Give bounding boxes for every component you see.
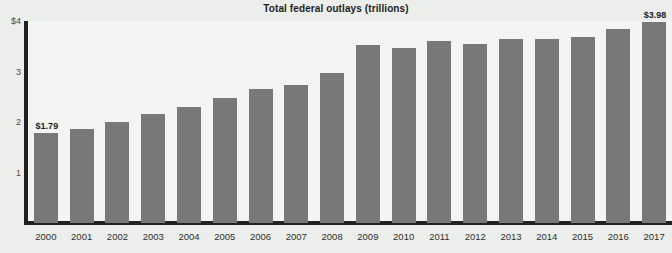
bar-rect-2003[interactable]: [141, 114, 165, 223]
bar-rect-2004[interactable]: [177, 107, 201, 223]
x-axis-tick-2006: 2006: [243, 231, 279, 243]
bar-2013[interactable]: [499, 21, 523, 223]
bar-value-label-2000: $1.79: [28, 121, 66, 131]
bar-2003[interactable]: [141, 21, 165, 223]
bar-rect-2010[interactable]: [392, 48, 416, 223]
bar-rect-2015[interactable]: [571, 37, 595, 223]
bar-2008[interactable]: [320, 21, 344, 223]
bar-2005[interactable]: [213, 21, 237, 223]
bar-2011[interactable]: [427, 21, 451, 223]
x-axis-tick-2000: 2000: [28, 231, 64, 243]
bar-rect-2006[interactable]: [249, 89, 273, 223]
x-axis-tick-2008: 2008: [314, 231, 350, 243]
bar-2007[interactable]: [284, 21, 308, 223]
bar-rect-2000[interactable]: [34, 133, 58, 223]
x-axis-tick-2016: 2016: [600, 231, 636, 243]
bar-rect-2012[interactable]: [463, 44, 487, 223]
bar-2009[interactable]: [356, 21, 380, 223]
bar-rect-2005[interactable]: [213, 98, 237, 223]
x-axis-tick-2015: 2015: [565, 231, 601, 243]
x-axis-tick-2011: 2011: [421, 231, 457, 243]
x-axis-tick-2002: 2002: [99, 231, 135, 243]
bar-rect-2011[interactable]: [427, 41, 451, 223]
bar-2001[interactable]: [70, 21, 94, 223]
x-axis-tick-2017: 2017: [636, 231, 672, 243]
y-axis-tick-4: $4: [0, 17, 21, 26]
x-axis-tick-2010: 2010: [386, 231, 422, 243]
bar-rect-2009[interactable]: [356, 45, 380, 223]
y-axis-tick-2: 2: [0, 118, 21, 127]
x-axis-tick-2007: 2007: [278, 231, 314, 243]
bar-2002[interactable]: [105, 21, 129, 223]
bar-2015[interactable]: [571, 21, 595, 223]
x-axis-tick-2001: 2001: [64, 231, 100, 243]
bar-2000[interactable]: $1.79: [34, 21, 58, 223]
bar-chart: Total federal outlays (trillions) $4321 …: [0, 0, 672, 253]
x-axis-tick-2004: 2004: [171, 231, 207, 243]
bar-2006[interactable]: [249, 21, 273, 223]
bar-2014[interactable]: [535, 21, 559, 223]
x-axis-tick-2013: 2013: [493, 231, 529, 243]
x-axis-tick-2012: 2012: [457, 231, 493, 243]
bar-rect-2013[interactable]: [499, 39, 523, 223]
x-axis-tick-2003: 2003: [135, 231, 171, 243]
bar-2016[interactable]: [606, 21, 630, 223]
x-axis-tick-labels: 2000200120022003200420052006200720082009…: [28, 231, 672, 247]
bar-rect-2014[interactable]: [535, 39, 559, 223]
bar-rect-2017[interactable]: [642, 22, 666, 223]
bar-2010[interactable]: [392, 21, 416, 223]
bar-rect-2008[interactable]: [320, 73, 344, 223]
y-axis-tick-1: 1: [0, 169, 21, 178]
bar-rect-2002[interactable]: [105, 122, 129, 224]
bar-2004[interactable]: [177, 21, 201, 223]
bar-rect-2007[interactable]: [284, 85, 308, 223]
y-axis-tick-3: 3: [0, 68, 21, 77]
x-axis-tick-2014: 2014: [529, 231, 565, 243]
bar-rect-2016[interactable]: [606, 29, 630, 223]
bar-2017[interactable]: $3.98: [642, 21, 666, 223]
bar-series: $1.79$3.98: [28, 21, 672, 223]
bar-rect-2001[interactable]: [70, 129, 94, 223]
bar-value-label-2017: $3.98: [636, 10, 672, 20]
x-axis-tick-2009: 2009: [350, 231, 386, 243]
bar-2012[interactable]: [463, 21, 487, 223]
x-axis-tick-2005: 2005: [207, 231, 243, 243]
